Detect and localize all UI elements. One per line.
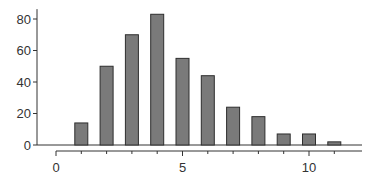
bar-chart: 020406080 0510 <box>0 0 366 181</box>
bar <box>303 134 316 145</box>
x-tick-label: 10 <box>302 160 316 175</box>
x-tick-label: 0 <box>52 160 59 175</box>
y-tick-label: 0 <box>24 138 31 153</box>
bar <box>125 35 138 145</box>
x-axis: 0510 <box>52 151 362 175</box>
bar <box>328 142 341 145</box>
x-tick-label: 5 <box>179 160 186 175</box>
y-tick-label: 80 <box>17 12 31 27</box>
y-tick-label: 40 <box>17 75 31 90</box>
bar <box>151 14 164 145</box>
bar <box>176 58 189 145</box>
bar <box>100 66 113 145</box>
bar <box>252 117 265 145</box>
bars <box>75 14 341 145</box>
bar <box>201 76 214 145</box>
bar <box>227 107 240 145</box>
y-tick-label: 60 <box>17 43 31 58</box>
y-tick-label: 20 <box>17 106 31 121</box>
bar <box>277 134 290 145</box>
bar <box>75 123 88 145</box>
